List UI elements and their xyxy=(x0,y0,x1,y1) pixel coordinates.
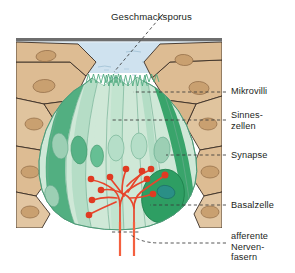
label-nervenfasern: afferente Nerven- fasern xyxy=(231,231,268,263)
label-basalzelle: Basalzelle xyxy=(231,200,274,211)
label-synapse: Synapse xyxy=(231,150,267,161)
label-sinneszellen: Sinnes- zellen xyxy=(231,110,263,131)
label-mikrovilli: Mikrovilli xyxy=(231,86,267,97)
figure-canvas: Geschmacksporus Mikrovilli Sinnes- zelle… xyxy=(0,0,295,273)
epithelial-surface-line xyxy=(16,38,222,43)
leader-nervenfasern-lower xyxy=(130,234,226,243)
figure-title-label: Geschmacksporus xyxy=(111,11,192,22)
